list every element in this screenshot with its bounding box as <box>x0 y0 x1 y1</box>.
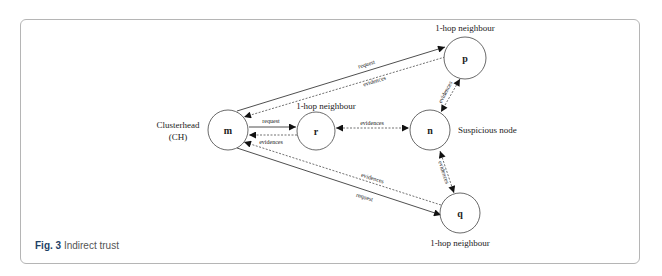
node-p-label: 1-hop neighbour <box>435 23 495 33</box>
edge-label-r-m-evidences: evidences <box>259 139 283 145</box>
indirect-trust-diagram: request evidences evidences request evid… <box>0 0 662 276</box>
figure-number: Fig. 3 <box>35 240 61 251</box>
figure-caption: Fig. 3 Indirect trust <box>35 240 119 251</box>
edge-label-m-p-request: request <box>357 59 376 70</box>
node-q-id: q <box>457 208 463 219</box>
edge-label-q-m-evidences: evidences <box>360 172 385 185</box>
figure-title: Indirect trust <box>64 240 119 251</box>
node-r-id: r <box>314 126 319 137</box>
edge-label-p-m-evidences: evidences <box>362 75 387 88</box>
node-r-label: 1-hop neighbour <box>296 101 356 111</box>
edge-m-q-request <box>237 148 441 215</box>
edge-q-m-evidences <box>244 142 441 205</box>
edge-label-m-r-request: request <box>262 118 280 124</box>
edge-label-n-q-evidences: evidences <box>437 160 450 185</box>
edge-label-p-n-evidences: evidences <box>437 80 454 104</box>
node-p-id: p <box>462 53 468 64</box>
node-n-id: n <box>427 125 433 136</box>
node-m-sublabel: (CH) <box>169 132 188 142</box>
node-q: q <box>440 193 480 233</box>
node-q-label: 1-hop neighbour <box>430 238 490 248</box>
node-n: n <box>410 110 450 150</box>
node-m-label: Clusterhead <box>157 120 200 130</box>
node-p: p <box>444 37 486 79</box>
node-n-label: Suspicious node <box>458 125 517 135</box>
node-r: r <box>297 112 335 150</box>
edge-label-r-n-evidences: evidences <box>360 120 384 126</box>
edge-label-m-q-request: request <box>355 192 374 203</box>
node-m-id: m <box>224 125 233 136</box>
node-m: m <box>208 110 248 150</box>
